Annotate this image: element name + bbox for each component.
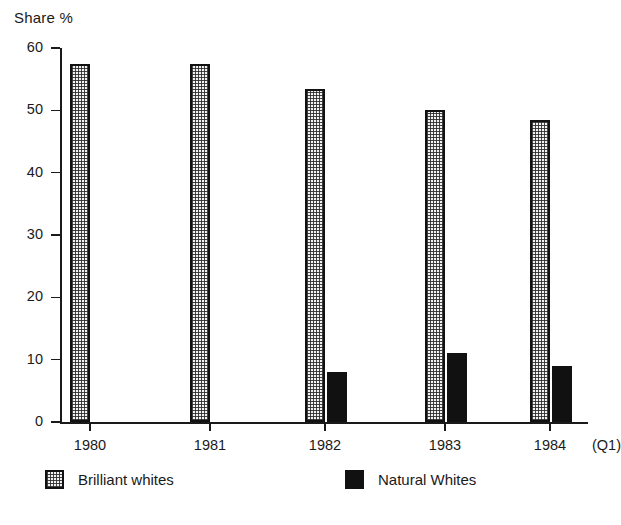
legend-label: Brilliant whites (78, 471, 174, 488)
y-tick (51, 297, 60, 299)
bar-1982-natural-whites (327, 372, 347, 422)
bar-1984-brilliant-whites (530, 120, 550, 422)
bar-1983-brilliant-whites (425, 110, 445, 422)
y-tick-label: 40 (7, 165, 43, 180)
bar-1980-brilliant-whites (70, 64, 90, 422)
x-tick (209, 422, 211, 431)
bar-1984-natural-whites (552, 366, 572, 422)
x-axis-note: (Q1) (592, 437, 621, 453)
y-axis-line (60, 48, 62, 422)
legend-swatch-icon (345, 470, 364, 489)
y-tick (51, 359, 60, 361)
bar-1981-brilliant-whites (190, 64, 210, 422)
y-tick (51, 421, 60, 423)
y-tick (51, 110, 60, 112)
x-tick-label: 1980 (60, 437, 120, 453)
legend-label: Natural Whites (378, 471, 476, 488)
chart-legend: Brilliant whitesNatural Whites (0, 470, 600, 510)
x-tick-label: 1983 (415, 437, 475, 453)
y-tick-label: 20 (7, 289, 43, 304)
bar-1983-natural-whites (447, 353, 467, 422)
legend-item-natural-whites: Natural Whites (345, 470, 476, 489)
legend-swatch-icon (45, 470, 64, 489)
x-tick (324, 422, 326, 431)
y-tick-label: 30 (7, 227, 43, 242)
y-tick-label: 50 (7, 102, 43, 117)
x-tick (549, 422, 551, 431)
y-tick (51, 234, 60, 236)
legend-item-brilliant-whites: Brilliant whites (45, 470, 174, 489)
x-tick-label: 1982 (295, 437, 355, 453)
y-tick-label: 10 (7, 352, 43, 367)
y-tick-label: 0 (7, 414, 43, 429)
x-tick (444, 422, 446, 431)
x-tick-label: 1984 (520, 437, 580, 453)
y-tick (51, 172, 60, 174)
plot-area: 0102030405060 19801981198219831984(Q1) (60, 48, 588, 422)
x-tick (89, 422, 91, 431)
bar-1982-brilliant-whites (305, 89, 325, 422)
y-axis-title: Share % (14, 9, 73, 26)
y-tick (51, 47, 60, 49)
x-tick-label: 1981 (180, 437, 240, 453)
y-tick-label: 60 (7, 40, 43, 55)
